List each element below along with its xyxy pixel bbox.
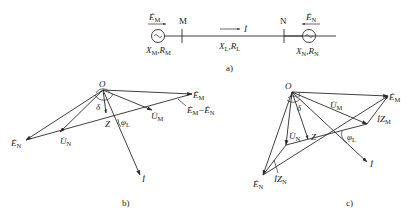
izn-phasor xyxy=(263,145,286,175)
un-label: U̇N xyxy=(60,136,72,147)
panel-a-caption: a) xyxy=(226,63,233,73)
en-label-c: ĖN xyxy=(252,179,264,190)
line-impedance-label: XL,RL xyxy=(218,41,240,52)
en-label: ĖN xyxy=(305,12,317,23)
panel-a-circuit: ĖM M ĖN N İ XL,RL XM,RM XN,RN a) xyxy=(145,12,336,73)
em-phasor xyxy=(103,90,192,94)
em-label: ĖM xyxy=(148,12,161,23)
generator-m-icon xyxy=(152,30,165,43)
delta-label-c: δ xyxy=(297,103,302,113)
current-label-c: İ xyxy=(369,159,374,169)
un-label-c: U̇N xyxy=(289,131,301,142)
phi-label-c: φL xyxy=(347,132,356,143)
current-label: İ xyxy=(243,24,248,34)
phasor-diagram-figure: ĖM M ĖN N İ XL,RL XM,RM XN,RN a) xyxy=(0,0,414,217)
z-label: Z xyxy=(105,119,111,129)
panel-b-caption: b) xyxy=(122,198,130,208)
panel-c-caption: c) xyxy=(346,198,353,208)
izm-label: İZM xyxy=(376,114,391,125)
um-label: U̇M xyxy=(151,111,164,122)
origin-label: O xyxy=(99,79,106,89)
em-phasor-c xyxy=(292,92,388,96)
panel-c-phasor: O δ Z φL ĖM U̇M İZM U̇N ĖN İZN İ c) xyxy=(252,81,401,208)
em-label-c: ĖM xyxy=(388,92,401,103)
panel-b-phasor: O δ Z φL ĖM ĖM−ĖN U̇M U̇N ĖN İ b) xyxy=(10,79,215,208)
source-m-impedance-label: XM,RM xyxy=(145,45,171,56)
delta-label: δ xyxy=(96,102,101,112)
phi-label: φL xyxy=(121,117,130,128)
bus-n-label: N xyxy=(280,16,287,26)
current-label-b: İ xyxy=(141,174,146,184)
en-phasor xyxy=(26,90,103,140)
em-minus-en-label: ĖM−ĖN xyxy=(186,105,215,116)
em-minus-en-line xyxy=(26,94,192,140)
em-label-b: ĖM xyxy=(192,90,205,101)
um-label-c: U̇M xyxy=(330,100,343,111)
izn-label: İZN xyxy=(273,174,287,185)
source-n-impedance-label: XN,RN xyxy=(295,46,319,57)
en-label-b: ĖN xyxy=(10,138,22,149)
bus-m-label: M xyxy=(179,16,187,26)
origin-label-c: O xyxy=(285,81,292,91)
